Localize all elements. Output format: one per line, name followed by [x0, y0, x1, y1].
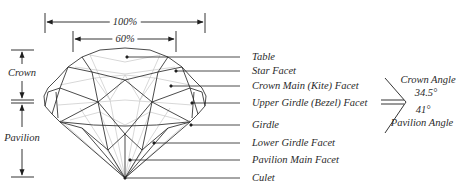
pavilion-label: Pavilion [4, 131, 40, 145]
label-culet: Culet [252, 172, 275, 184]
diamond-anatomy-diagram: 100% 60% Crown Pavilion Table Star Facet… [0, 0, 474, 196]
crown-label: Crown [8, 66, 36, 80]
label-pavilion-main-facet: Pavilion Main Facet [252, 154, 339, 166]
crown-angle-value: 34.5° [415, 87, 438, 99]
table-width-label: 60% [112, 33, 137, 45]
total-width-label: 100% [110, 16, 141, 28]
label-table: Table [252, 51, 275, 63]
crown-angle-label: Crown Angle [400, 74, 455, 86]
pavilion-angle-value: 41° [416, 104, 431, 116]
label-girdle: Girdle [252, 119, 279, 131]
label-lower-girdle-facet: Lower Girdle Facet [252, 137, 335, 149]
diamond-facets-dark [44, 48, 206, 178]
diagram-lines [0, 0, 474, 196]
label-star-facet: Star Facet [252, 65, 296, 77]
label-upper-girdle-facet: Upper Girdle (Bezel) Facet [252, 97, 367, 109]
label-crown-main-facet: Crown Main (Kite) Facet [252, 80, 359, 92]
pavilion-angle-label: Pavilion Angle [391, 117, 454, 129]
